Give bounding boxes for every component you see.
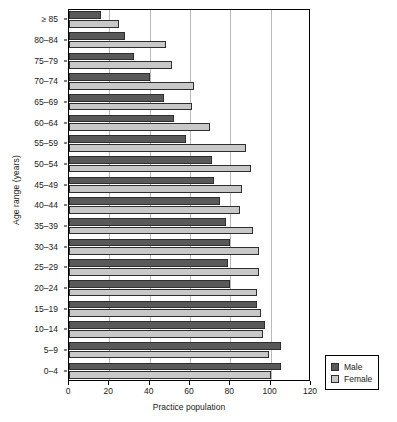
y-axis-tick-labels: ≥ 8580–8475–7970–7465–6960–6455–5950–544… bbox=[0, 9, 64, 381]
y-tick-mark bbox=[64, 226, 67, 227]
y-tick-mark bbox=[64, 308, 67, 309]
bar-female[interactable] bbox=[69, 41, 166, 49]
bar-female[interactable] bbox=[69, 247, 259, 255]
age-band bbox=[69, 134, 309, 155]
legend-item[interactable]: Male bbox=[331, 361, 372, 372]
age-band bbox=[69, 51, 309, 72]
bar-male[interactable] bbox=[69, 73, 150, 81]
y-tick-label: 65–69 bbox=[34, 97, 58, 107]
x-tick-mark bbox=[310, 381, 311, 385]
bar-female[interactable] bbox=[69, 144, 246, 152]
x-tick-mark bbox=[149, 381, 150, 385]
bar-male[interactable] bbox=[69, 53, 134, 61]
y-tick-label: 70–74 bbox=[34, 76, 58, 86]
y-tick-mark bbox=[64, 102, 67, 103]
bar-female[interactable] bbox=[69, 268, 259, 276]
bar-female[interactable] bbox=[69, 103, 192, 111]
age-band bbox=[69, 93, 309, 114]
y-tick-mark bbox=[64, 122, 67, 123]
bar-male[interactable] bbox=[69, 342, 281, 350]
bar-female[interactable] bbox=[69, 309, 261, 317]
age-band bbox=[69, 320, 309, 341]
bar-female[interactable] bbox=[69, 330, 263, 338]
y-tick-mark bbox=[64, 329, 67, 330]
x-tick-label: 80 bbox=[209, 386, 249, 396]
legend-label: Female bbox=[344, 374, 372, 384]
x-tick-mark bbox=[229, 381, 230, 385]
x-tick-mark bbox=[189, 381, 190, 385]
bar-male[interactable] bbox=[69, 280, 230, 288]
bar-male[interactable] bbox=[69, 259, 228, 267]
bar-female[interactable] bbox=[69, 165, 251, 173]
y-tick-mark bbox=[64, 19, 67, 20]
bar-female[interactable] bbox=[69, 371, 271, 379]
legend-label: Male bbox=[344, 362, 362, 372]
bar-male[interactable] bbox=[69, 239, 230, 247]
bar-female[interactable] bbox=[69, 227, 253, 235]
y-tick-label: ≥ 85 bbox=[42, 14, 58, 24]
bar-male[interactable] bbox=[69, 11, 101, 19]
x-axis-title: Practice population bbox=[68, 402, 310, 412]
y-tick-label: 80–84 bbox=[34, 35, 58, 45]
y-tick-mark bbox=[64, 246, 67, 247]
bar-male[interactable] bbox=[69, 363, 281, 371]
bar-male[interactable] bbox=[69, 156, 212, 164]
age-band bbox=[69, 237, 309, 258]
y-tick-mark bbox=[64, 40, 67, 41]
y-tick-mark bbox=[64, 267, 67, 268]
y-tick-label: 75–79 bbox=[34, 56, 58, 66]
bar-male[interactable] bbox=[69, 115, 174, 123]
age-band bbox=[69, 72, 309, 93]
y-tick-label: 30–34 bbox=[34, 242, 58, 252]
y-tick-label: 45–49 bbox=[34, 180, 58, 190]
y-tick-mark bbox=[64, 350, 67, 351]
y-tick-label: 60–64 bbox=[34, 118, 58, 128]
bar-male[interactable] bbox=[69, 177, 214, 185]
age-band bbox=[69, 258, 309, 279]
x-tick-label: 40 bbox=[129, 386, 169, 396]
bar-male[interactable] bbox=[69, 301, 257, 309]
y-tick-mark bbox=[64, 184, 67, 185]
age-band bbox=[69, 361, 309, 382]
y-tick-mark bbox=[64, 370, 67, 371]
age-band bbox=[69, 341, 309, 362]
bar-female[interactable] bbox=[69, 61, 172, 69]
y-tick-mark bbox=[64, 205, 67, 206]
y-tick-label: 10–14 bbox=[34, 324, 58, 334]
bar-male[interactable] bbox=[69, 197, 220, 205]
legend-swatch-icon bbox=[331, 375, 339, 383]
bar-female[interactable] bbox=[69, 206, 240, 214]
bar-male[interactable] bbox=[69, 218, 226, 226]
bar-female[interactable] bbox=[69, 20, 119, 28]
age-band bbox=[69, 113, 309, 134]
bars-layer bbox=[69, 10, 309, 380]
y-tick-mark bbox=[64, 60, 67, 61]
bar-male[interactable] bbox=[69, 135, 186, 143]
legend-item[interactable]: Female bbox=[331, 373, 372, 384]
bar-female[interactable] bbox=[69, 289, 257, 297]
y-tick-label: 20–24 bbox=[34, 283, 58, 293]
age-band bbox=[69, 217, 309, 238]
age-band bbox=[69, 279, 309, 300]
bar-male[interactable] bbox=[69, 32, 125, 40]
bar-female[interactable] bbox=[69, 82, 194, 90]
age-band bbox=[69, 155, 309, 176]
x-tick-label: 60 bbox=[169, 386, 209, 396]
y-tick-label: 50–54 bbox=[34, 159, 58, 169]
chart-legend: MaleFemale bbox=[325, 355, 379, 390]
y-tick-label: 40–44 bbox=[34, 200, 58, 210]
age-band bbox=[69, 10, 309, 31]
bar-female[interactable] bbox=[69, 351, 269, 359]
x-tick-label: 100 bbox=[250, 386, 290, 396]
x-tick-mark bbox=[108, 381, 109, 385]
y-tick-mark bbox=[64, 164, 67, 165]
x-tick-label: 20 bbox=[88, 386, 128, 396]
bar-female[interactable] bbox=[69, 185, 242, 193]
bar-female[interactable] bbox=[69, 123, 210, 131]
age-band bbox=[69, 196, 309, 217]
y-tick-label: 5–9 bbox=[44, 345, 58, 355]
y-tick-label: 55–59 bbox=[34, 138, 58, 148]
bar-male[interactable] bbox=[69, 321, 265, 329]
x-tick-label: 0 bbox=[48, 386, 88, 396]
bar-male[interactable] bbox=[69, 94, 164, 102]
